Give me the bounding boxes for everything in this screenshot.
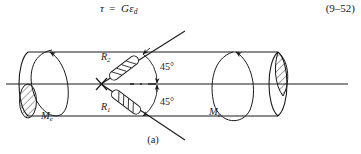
torque-right-subscript: e — [218, 111, 221, 119]
angle-arc-lower-path — [143, 86, 157, 116]
torque-arrow-left — [31, 50, 68, 116]
axis-dot — [140, 83, 142, 85]
torque-left-subscript: e — [50, 115, 53, 123]
strain-gauge-r1 — [110, 88, 143, 116]
angle-arc-lower — [143, 85, 157, 116]
equation-body: τ = Gεd — [100, 2, 138, 16]
gauge-r1-symbol: R — [100, 101, 107, 112]
equation-rhs-subscript: d — [134, 7, 138, 16]
torque-left-loop — [31, 50, 68, 116]
shaft-left-end — [19, 52, 37, 118]
equation-lhs: τ — [100, 2, 104, 14]
gauge-r1-subscript: 1 — [107, 106, 110, 113]
equation-rhs: Gε — [121, 2, 134, 14]
gauge-r2-symbol: R — [100, 51, 107, 62]
gauge-r2-label: R2 — [100, 51, 111, 63]
right-cross-section-hatched — [275, 52, 287, 96]
equation-line: τ = Gεd (9–52) — [0, 2, 361, 22]
figure-caption: (a) — [0, 134, 361, 145]
figure-page: τ = Gεd (9–52) — [0, 0, 361, 154]
angle-upper-label: 45° — [160, 61, 174, 72]
equation-operator: = — [107, 2, 118, 14]
figure-caption-text: (a) — [147, 134, 159, 145]
torque-left-label: Me — [40, 110, 53, 123]
torque-right-label: Me — [208, 106, 221, 119]
gauge-r1-body — [110, 88, 143, 116]
gauge-r1-label: R1 — [100, 101, 111, 113]
gauge-r2-subscript: 2 — [107, 56, 111, 63]
strain-gauge-r2 — [108, 54, 141, 82]
angle-lower-label: 45° — [160, 96, 174, 107]
angle-arc-upper-path — [143, 54, 157, 83]
gauge-r2-body — [108, 54, 141, 82]
left-cross-section-hatched — [20, 84, 37, 118]
equation-number: (9–52) — [326, 2, 355, 14]
